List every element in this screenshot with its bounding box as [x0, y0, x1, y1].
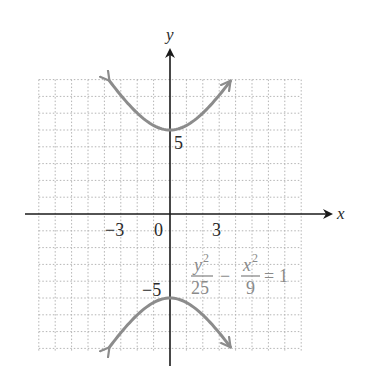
x-axis-label: x — [336, 204, 345, 223]
y-axis-label: y — [164, 25, 174, 44]
eq-denominator-25: 25 — [191, 278, 209, 298]
eq-numerator-y: y — [192, 255, 202, 275]
y-tick-label-5: 5 — [174, 133, 183, 153]
eq-exp-y: 2 — [203, 251, 209, 265]
hyperbola-chart: x y −3 0 3 5 −5 y 2 25 − x 2 9 = 1 — [0, 0, 367, 372]
x-tick-label-neg3: −3 — [105, 220, 124, 240]
y-tick-label-neg5: −5 — [142, 280, 161, 300]
eq-minus: − — [220, 266, 230, 286]
eq-rhs-1: 1 — [279, 266, 288, 286]
x-tick-label-3: 3 — [212, 220, 221, 240]
equation-label: y 2 25 − x 2 9 = 1 — [191, 251, 288, 298]
eq-equals: = — [264, 266, 274, 286]
x-tick-label-0: 0 — [154, 220, 163, 240]
eq-exp-x: 2 — [252, 251, 258, 265]
eq-denominator-9: 9 — [246, 278, 255, 298]
eq-numerator-x: x — [242, 255, 251, 275]
